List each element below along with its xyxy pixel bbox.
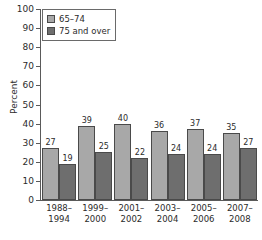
bar-chart: Percent 0102030405060708090100 271939254… bbox=[0, 0, 262, 240]
y-tick-mark bbox=[36, 143, 40, 144]
y-tick-label: 60 bbox=[23, 81, 34, 90]
legend-swatch-65-74 bbox=[47, 15, 55, 23]
bar: 22 bbox=[131, 158, 148, 200]
bar-value-label: 37 bbox=[190, 120, 200, 128]
bar-group: 3724 bbox=[187, 9, 221, 200]
bar: 37 bbox=[187, 129, 204, 200]
y-tick-label: 100 bbox=[17, 5, 34, 14]
y-tick-label: 80 bbox=[23, 43, 34, 52]
bar-value-label: 24 bbox=[171, 145, 181, 153]
bar: 27 bbox=[240, 148, 257, 200]
bar-value-label: 35 bbox=[226, 124, 236, 132]
bar-value-label: 27 bbox=[45, 139, 55, 147]
bar: 25 bbox=[95, 152, 112, 200]
x-tick-label: 1988–1994 bbox=[41, 203, 77, 225]
x-tick-label: 2001–2002 bbox=[113, 203, 149, 225]
legend-label: 65–74 bbox=[59, 15, 85, 24]
y-tick-mark bbox=[36, 85, 40, 86]
bar-value-label: 22 bbox=[135, 149, 145, 157]
bar: 19 bbox=[59, 164, 76, 200]
y-tick-label: 10 bbox=[23, 176, 34, 185]
bar-value-label: 24 bbox=[207, 145, 217, 153]
x-tick-label: 2003–2004 bbox=[150, 203, 186, 225]
bar-value-label: 39 bbox=[82, 117, 92, 125]
x-axis-labels: 1988–19941999–20002001–20022003–20042005… bbox=[41, 203, 258, 225]
y-tick-label: 90 bbox=[23, 24, 34, 33]
y-tick-mark bbox=[36, 9, 40, 10]
y-tick-mark bbox=[36, 28, 40, 29]
x-axis-line bbox=[40, 200, 258, 201]
bar: 39 bbox=[78, 126, 95, 200]
bar: 27 bbox=[42, 148, 59, 200]
bar-value-label: 40 bbox=[118, 115, 128, 123]
y-tick-label: 70 bbox=[23, 62, 34, 71]
legend-swatch-75-and-over bbox=[47, 27, 55, 35]
y-tick-label: 20 bbox=[23, 157, 34, 166]
bar-value-label: 19 bbox=[62, 155, 72, 163]
bar-value-label: 25 bbox=[99, 143, 109, 151]
bar-value-label: 36 bbox=[154, 122, 164, 130]
chart-legend: 65–74 75 and over bbox=[42, 9, 116, 41]
bar-group: 3527 bbox=[223, 9, 257, 200]
legend-item: 75 and over bbox=[47, 25, 110, 37]
legend-label: 75 and over bbox=[59, 27, 110, 36]
bar: 24 bbox=[204, 154, 221, 200]
bar-value-label: 27 bbox=[243, 139, 253, 147]
bar: 35 bbox=[223, 133, 240, 200]
y-tick-mark bbox=[36, 66, 40, 67]
y-tick-label: 0 bbox=[28, 196, 34, 205]
y-tick-mark bbox=[36, 181, 40, 182]
x-tick-label: 1999–2000 bbox=[77, 203, 113, 225]
legend-item: 65–74 bbox=[47, 13, 110, 25]
y-tick-label: 50 bbox=[23, 100, 34, 109]
y-tick-mark bbox=[36, 162, 40, 163]
y-tick-label: 30 bbox=[23, 138, 34, 147]
y-axis-title: Percent bbox=[9, 52, 19, 142]
y-tick-label: 40 bbox=[23, 119, 34, 128]
x-tick-label: 2007–2008 bbox=[222, 203, 258, 225]
x-tick-label: 2005–2006 bbox=[186, 203, 222, 225]
bar: 24 bbox=[168, 154, 185, 200]
bar-group: 4022 bbox=[114, 9, 148, 200]
y-tick-mark bbox=[36, 47, 40, 48]
bar-group: 3624 bbox=[151, 9, 185, 200]
bar: 36 bbox=[151, 131, 168, 200]
bar: 40 bbox=[114, 124, 131, 200]
y-tick-mark bbox=[36, 124, 40, 125]
y-tick-mark bbox=[36, 200, 40, 201]
y-tick-mark bbox=[36, 105, 40, 106]
